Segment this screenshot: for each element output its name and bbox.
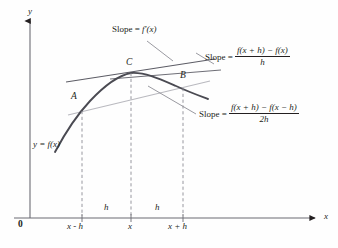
origin-label: 0: [18, 220, 23, 230]
tick-label-x-plus-h: x + h: [168, 222, 187, 231]
y-axis-label: y: [28, 7, 32, 16]
annotation-forward-numerator: f(x + h) − f(x): [235, 46, 290, 57]
annotation-tangent-keyword: Slope: [112, 24, 133, 34]
tick-label-x: x: [128, 222, 132, 231]
annotation-centered-denominator: 2h: [229, 114, 299, 124]
leader-line-tangent: [147, 41, 173, 61]
point-label-c: C: [126, 58, 132, 68]
annotation-forward-fraction: f(x + h) − f(x) h: [235, 46, 290, 67]
annotation-forward-keyword: Slope: [205, 52, 226, 62]
annotation-forward-denominator: h: [235, 57, 290, 67]
annotation-tangent-expression: f′(x): [142, 24, 156, 34]
annotation-centered-numerator: f(x + h) − f(x − h): [229, 103, 299, 114]
derivative-approximation-figure: y x 0 y = f(x) A C B x - h x x + h h h S…: [0, 0, 338, 248]
annotation-centered-equals: =: [222, 109, 227, 119]
annotation-forward-difference: Slope = f(x + h) − f(x) h: [205, 47, 290, 68]
x-axis-label: x: [324, 212, 328, 221]
annotation-centered-keyword: Slope: [199, 109, 220, 119]
spacing-label-right-h: h: [155, 203, 160, 212]
spacing-label-left-h: h: [104, 203, 109, 212]
tangent-line-at-c: [66, 59, 215, 82]
annotation-tangent-equals: =: [135, 24, 140, 34]
annotation-forward-equals: =: [228, 52, 233, 62]
annotation-tangent-slope: Slope = f′(x): [112, 25, 157, 34]
tick-label-x-minus-h: x - h: [67, 222, 83, 231]
point-label-a: A: [71, 92, 77, 102]
point-label-b: B: [180, 71, 186, 81]
annotation-centered-difference: Slope = f(x + h) − f(x − h) 2h: [199, 104, 299, 125]
curve-label: y = f(x): [33, 140, 60, 149]
annotation-centered-fraction: f(x + h) − f(x − h) 2h: [229, 103, 299, 124]
